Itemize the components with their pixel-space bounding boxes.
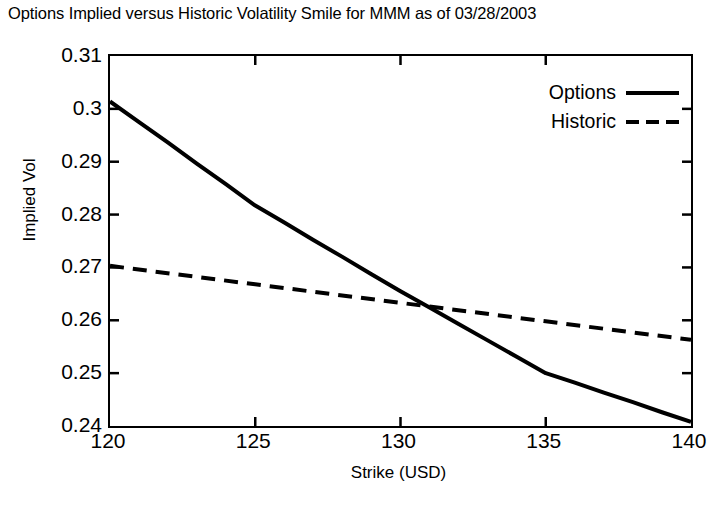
y-tick-label: 0.31 [61,44,102,65]
y-axis-label: Implied Vol [20,105,40,295]
y-tick-label: 0.25 [61,361,102,382]
x-tick-label: 130 [381,430,416,451]
x-tick-label: 140 [671,430,706,451]
y-tick-label: 0.3 [73,97,102,118]
chart-legend: Options Historic [520,78,680,136]
legend-label-historic: Historic [551,110,616,133]
x-axis-tick-labels: 120125130135140 [0,430,723,460]
x-tick-label: 135 [526,430,561,451]
legend-item-historic: Historic [520,107,680,136]
y-tick-label: 0.27 [61,255,102,276]
series-line-options [110,101,691,421]
x-tick-label: 125 [236,430,271,451]
y-tick-label: 0.26 [61,308,102,329]
x-tick-label: 120 [90,430,125,451]
y-tick-label: 0.28 [61,203,102,224]
chart-figure: Options Implied versus Historic Volatili… [0,0,723,513]
legend-swatch-dashed-line [625,115,680,129]
series-line-historic [110,266,691,340]
legend-swatch-solid-line [625,86,680,100]
chart-title: Options Implied versus Historic Volatili… [8,4,718,23]
legend-label-options: Options [549,81,616,104]
x-axis-label: Strike (USD) [108,463,689,483]
y-tick-label: 0.29 [61,150,102,171]
legend-item-options: Options [520,78,680,107]
